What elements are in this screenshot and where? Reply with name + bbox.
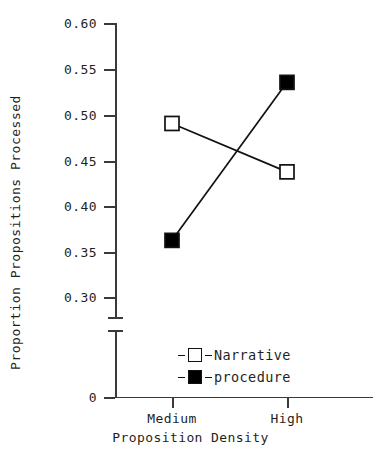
open-square-marker-icon (188, 348, 202, 362)
legend-key-narrative (178, 344, 212, 366)
data-point-narrative-high[interactable] (280, 165, 294, 179)
line-chart: Proportion Propositions Processed 0.60 0… (0, 0, 381, 465)
legend-item-narrative[interactable]: Narrative (178, 344, 291, 366)
data-point-procedure-high[interactable] (280, 75, 294, 89)
legend-label-procedure: procedure (212, 369, 291, 385)
series-line-narrative (172, 123, 287, 171)
legend-line-stub-left (178, 355, 185, 356)
legend-line-stub-left (178, 377, 185, 378)
plot-area (0, 0, 381, 465)
data-point-narrative-medium[interactable] (165, 116, 179, 130)
legend-line-stub-right (205, 355, 212, 356)
series-line-procedure (172, 82, 287, 240)
legend-line-stub-right (205, 377, 212, 378)
series-layer (0, 0, 381, 465)
legend: Narrative procedure (178, 344, 291, 388)
filled-square-marker-icon (188, 370, 202, 384)
legend-key-procedure (178, 366, 212, 388)
legend-label-narrative: Narrative (212, 347, 291, 363)
legend-item-procedure[interactable]: procedure (178, 366, 291, 388)
data-point-procedure-medium[interactable] (165, 233, 179, 247)
